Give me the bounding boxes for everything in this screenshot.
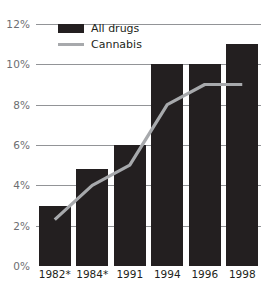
legend-line-swatch-icon xyxy=(58,43,84,46)
y-axis: 0%2%4%6%8%10%12% xyxy=(0,24,34,266)
y-tick-label: 0% xyxy=(13,260,30,272)
gridline xyxy=(36,266,261,267)
plot-area xyxy=(36,24,261,266)
cannabis-line-svg xyxy=(36,24,261,266)
y-tick-label: 2% xyxy=(13,220,30,232)
x-tick-label: 1998 xyxy=(229,268,256,280)
legend-item-cannabis: Cannabis xyxy=(58,38,142,51)
y-tick-label: 10% xyxy=(6,58,30,70)
x-tick-label: 1996 xyxy=(191,268,218,280)
cannabis-polyline xyxy=(55,85,243,220)
legend-label-all-drugs: All drugs xyxy=(91,23,139,34)
legend-bar-swatch-icon xyxy=(58,24,84,33)
chart-legend: All drugs Cannabis xyxy=(58,22,142,51)
x-tick-label: 1984* xyxy=(76,268,108,280)
line-series-cannabis xyxy=(36,24,261,266)
x-axis: 1982*1984*1991199419961998 xyxy=(36,268,261,288)
y-tick-label: 4% xyxy=(13,179,30,191)
x-tick-label: 1991 xyxy=(116,268,143,280)
x-tick-label: 1982* xyxy=(39,268,71,280)
legend-item-all-drugs: All drugs xyxy=(58,22,142,35)
x-tick-label: 1994 xyxy=(154,268,181,280)
y-tick-label: 6% xyxy=(13,139,30,151)
y-tick-label: 8% xyxy=(13,99,30,111)
drug-use-trend-chart: 0%2%4%6%8%10%12% 1982*1984*1991199419961… xyxy=(0,0,265,297)
legend-label-cannabis: Cannabis xyxy=(91,39,142,50)
y-tick-label: 12% xyxy=(6,18,30,30)
